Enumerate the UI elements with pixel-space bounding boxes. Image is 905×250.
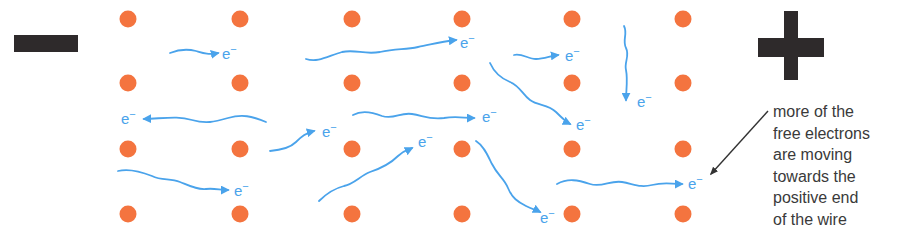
electron-2: e− xyxy=(306,32,475,60)
electron-8: e− xyxy=(353,106,497,125)
electron-paths: e− e− e− e− e− e− e− e− xyxy=(118,26,703,226)
electron-path xyxy=(144,116,266,122)
positive-ion xyxy=(344,11,361,28)
positive-ion xyxy=(120,206,137,223)
positive-ion xyxy=(454,75,471,92)
annotation-line: free electrons xyxy=(773,123,905,145)
positive-ion xyxy=(454,141,471,158)
annotation-text: more of the free electrons are moving to… xyxy=(773,101,905,230)
electron-label: e− xyxy=(482,106,497,125)
electron-label: e− xyxy=(418,131,433,150)
positive-ion xyxy=(232,11,249,28)
negative-terminal-minus-icon xyxy=(14,35,78,52)
positive-ion xyxy=(675,75,692,92)
annotation-line: are moving xyxy=(773,144,905,166)
electron-1: e− xyxy=(170,43,237,62)
electron-path xyxy=(170,50,218,54)
electron-drift-diagram: e− e− e− e− e− e− e− e− xyxy=(0,0,905,250)
annotation-pointer-arrow xyxy=(711,111,768,174)
electron-path xyxy=(118,170,228,190)
positive-ion xyxy=(344,75,361,92)
electron-path xyxy=(514,55,558,59)
positive-ion xyxy=(232,141,249,158)
electron-9: e− xyxy=(319,131,433,201)
electron-3: e− xyxy=(514,45,580,64)
electron-label: e− xyxy=(637,91,652,110)
electron-path xyxy=(624,26,627,100)
positive-ion xyxy=(120,75,137,92)
electron-4: e− xyxy=(624,26,652,110)
annotation-line: of the wire xyxy=(773,209,905,231)
electron-label: e− xyxy=(565,45,580,64)
electron-10: e− xyxy=(476,141,555,226)
positive-ion xyxy=(120,11,137,28)
positive-terminal-plus-icon xyxy=(758,11,824,80)
electron-label: e− xyxy=(576,114,591,133)
electron-5: e− xyxy=(121,108,266,127)
electron-path xyxy=(490,63,570,124)
electron-label: e− xyxy=(222,43,237,62)
electron-path xyxy=(353,112,474,119)
electron-path xyxy=(306,40,456,60)
positive-ion xyxy=(120,141,137,158)
positive-ion xyxy=(564,11,581,28)
annotation-line: more of the xyxy=(773,101,905,123)
electron-label: e− xyxy=(234,180,249,199)
electron-path xyxy=(270,131,314,151)
electron-12: e− xyxy=(557,173,703,192)
positive-ion xyxy=(232,75,249,92)
positive-ion xyxy=(564,206,581,223)
ion-lattice xyxy=(120,11,692,223)
positive-ion xyxy=(232,206,249,223)
electron-label: e− xyxy=(540,207,555,226)
positive-ion xyxy=(675,11,692,28)
annotation-line: positive end xyxy=(773,187,905,209)
electron-label: e− xyxy=(322,121,337,140)
electron-11: e− xyxy=(118,170,249,199)
positive-ion xyxy=(454,11,471,28)
positive-ion xyxy=(564,141,581,158)
electron-path xyxy=(476,141,540,212)
electron-label: e− xyxy=(121,108,136,127)
positive-ion xyxy=(344,141,361,158)
electron-7: e− xyxy=(270,121,337,151)
positive-ion xyxy=(675,141,692,158)
electron-label: e− xyxy=(460,32,475,51)
electron-path xyxy=(319,148,412,201)
electron-path xyxy=(557,180,682,186)
electron-6: e− xyxy=(490,63,591,133)
positive-ion xyxy=(675,206,692,223)
electron-label: e− xyxy=(688,173,703,192)
positive-ion xyxy=(344,206,361,223)
positive-ion xyxy=(564,75,581,92)
annotation-line: towards the xyxy=(773,166,905,188)
positive-ion xyxy=(454,206,471,223)
